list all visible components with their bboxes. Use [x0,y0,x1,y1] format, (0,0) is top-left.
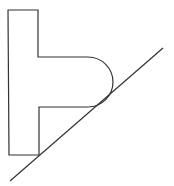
diagram-canvas [0,0,174,186]
t-shaped-body [8,10,113,155]
inclined-line [10,48,163,181]
